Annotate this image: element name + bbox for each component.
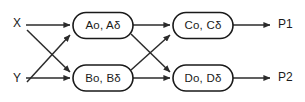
node-d-label: Do, Dδ [185, 72, 222, 84]
node-a-label: Ao, Aδ [85, 19, 120, 31]
output-label-p1: P1 [278, 17, 293, 31]
edge-group-output-layer [233, 25, 270, 78]
input-label-x: X [13, 16, 21, 30]
output-label-p2: P2 [278, 70, 293, 84]
node-b[interactable]: Bo, Bδ [73, 65, 133, 91]
edge-y-to-a [27, 35, 70, 82]
node-c-label: Co, Cδ [185, 19, 222, 31]
edge-x-to-b [27, 30, 70, 72]
input-label-y: Y [13, 71, 21, 85]
node-b-label: Bo, Bδ [85, 72, 121, 84]
diagram-canvas: Ao, Aδ Co, Cδ Bo, Bδ Do, Dδ X Y P1 P2 [0, 0, 305, 102]
edge-group-hidden-layer [131, 25, 170, 78]
node-d[interactable]: Do, Dδ [173, 65, 233, 91]
node-a[interactable]: Ao, Aδ [73, 13, 133, 39]
edge-group-input-layer [26, 25, 70, 82]
network-diagram: Ao, Aδ Co, Cδ Bo, Bδ Do, Dδ X Y P1 P2 [0, 0, 305, 102]
node-c[interactable]: Co, Cδ [173, 13, 233, 39]
